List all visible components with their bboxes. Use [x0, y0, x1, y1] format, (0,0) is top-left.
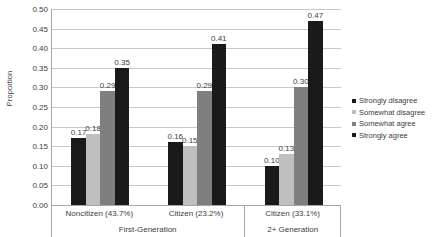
bar-value-label: 0.16 [167, 132, 183, 141]
bar: 0.30 [294, 87, 309, 205]
group-label: 2+ Generation [244, 221, 341, 237]
group-label: First-Generation [51, 221, 244, 237]
y-axis-tick-label: 0.15 [14, 142, 48, 151]
category-axis-separator [340, 221, 341, 237]
bar: 0.15 [183, 146, 198, 205]
legend-swatch-icon [352, 133, 356, 137]
y-axis-tick-label: 0.50 [14, 5, 48, 14]
bars-layer: 0.170.180.290.350.160.150.290.410.100.13… [52, 9, 341, 205]
y-axis-tick-label: 0.05 [14, 181, 48, 190]
category-label: Noncitizen (43.7%) [51, 205, 148, 221]
bar: 0.47 [308, 21, 323, 205]
bar-value-label: 0.15 [182, 136, 198, 145]
category-axis-separator [51, 221, 52, 237]
category-axis: Noncitizen (43.7%)Citizen (23.2%)Citizen… [51, 205, 341, 237]
y-axis-title: Proportion [5, 49, 14, 129]
legend-swatch-icon [352, 99, 356, 103]
bar-value-label: 0.10 [264, 156, 280, 165]
legend: Strongly disagreeSomewhat disagreeSomewh… [352, 95, 434, 141]
bar: 0.10 [265, 166, 280, 205]
y-axis-tick-label: 0.40 [14, 44, 48, 53]
bar: 0.35 [115, 68, 130, 205]
legend-label: Somewhat agree [359, 120, 416, 128]
bar-chart: Proportion 0.500.450.400.350.300.250.200… [0, 0, 435, 237]
bar: 0.16 [168, 142, 183, 205]
y-axis-tick-label: 0.20 [14, 122, 48, 131]
legend-label: Strongly agree [359, 132, 408, 140]
y-axis-tick-label: 0.00 [14, 201, 48, 210]
bar-value-label: 0.47 [308, 11, 324, 20]
legend-swatch-icon [352, 122, 356, 126]
bar-value-label: 0.30 [293, 77, 309, 86]
y-axis-tick-label: 0.45 [14, 24, 48, 33]
bar-value-label: 0.41 [211, 34, 227, 43]
legend-item[interactable]: Strongly agree [352, 130, 434, 142]
bar-value-label: 0.35 [114, 58, 130, 67]
y-axis-tick-label: 0.30 [14, 83, 48, 92]
bar-value-label: 0.13 [279, 144, 295, 153]
legend-item[interactable]: Strongly disagree [352, 95, 434, 107]
y-axis-tick-label: 0.10 [14, 161, 48, 170]
legend-swatch-icon [352, 110, 356, 114]
category-axis-separator [340, 205, 341, 221]
bar-group: 0.160.150.290.41 [168, 9, 226, 205]
bar: 0.17 [71, 138, 86, 205]
plot-area: 0.170.180.290.350.160.150.290.410.100.13… [51, 9, 341, 205]
y-axis-tick-label: 0.35 [14, 63, 48, 72]
legend-item[interactable]: Somewhat agree [352, 118, 434, 130]
category-labels-row: Noncitizen (43.7%)Citizen (23.2%)Citizen… [51, 205, 341, 221]
bar: 0.29 [100, 91, 115, 205]
group-labels-row: First-Generation2+ Generation [51, 221, 341, 237]
bar: 0.13 [279, 154, 294, 205]
category-label: Citizen (33.1%) [244, 205, 341, 221]
category-label: Citizen (23.2%) [148, 205, 245, 221]
legend-item[interactable]: Somewhat disagree [352, 107, 434, 119]
category-axis-separator [244, 205, 245, 221]
bar: 0.41 [212, 44, 227, 205]
bar-value-label: 0.29 [196, 81, 212, 90]
bar-group: 0.100.130.300.47 [265, 9, 323, 205]
bar-value-label: 0.29 [100, 81, 116, 90]
y-axis-tick-labels: 0.500.450.400.350.300.250.200.150.100.05… [14, 9, 48, 205]
bar: 0.29 [197, 91, 212, 205]
y-axis-tick-label: 0.25 [14, 103, 48, 112]
bar-value-label: 0.17 [71, 128, 87, 137]
category-axis-separator [51, 205, 52, 221]
category-axis-separator [244, 221, 245, 237]
legend-label: Strongly disagree [359, 97, 417, 105]
bar: 0.18 [86, 134, 101, 205]
bar-group: 0.170.180.290.35 [71, 9, 129, 205]
legend-label: Somewhat disagree [359, 109, 425, 117]
bar-value-label: 0.18 [85, 124, 101, 133]
